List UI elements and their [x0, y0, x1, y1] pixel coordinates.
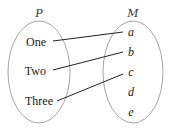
mapping-diagram: P One Two Three M a b c d e — [0, 0, 175, 136]
element-b: b — [128, 45, 134, 59]
set-p-label: P — [34, 7, 43, 20]
mappings — [53, 32, 123, 101]
element-three: Three — [25, 94, 53, 108]
element-one: One — [26, 35, 46, 49]
element-a: a — [128, 25, 134, 39]
set-m: M a b c d e — [103, 7, 163, 123]
element-e: e — [128, 105, 134, 119]
set-m-label: M — [126, 7, 139, 20]
mapping-three-to-c — [57, 74, 123, 101]
element-two: Two — [25, 64, 46, 78]
mapping-two-to-b — [53, 52, 123, 70]
element-c: c — [128, 65, 134, 79]
set-p: P One Two Three — [8, 7, 70, 123]
element-d: d — [128, 85, 135, 99]
mapping-one-to-a — [53, 32, 123, 41]
